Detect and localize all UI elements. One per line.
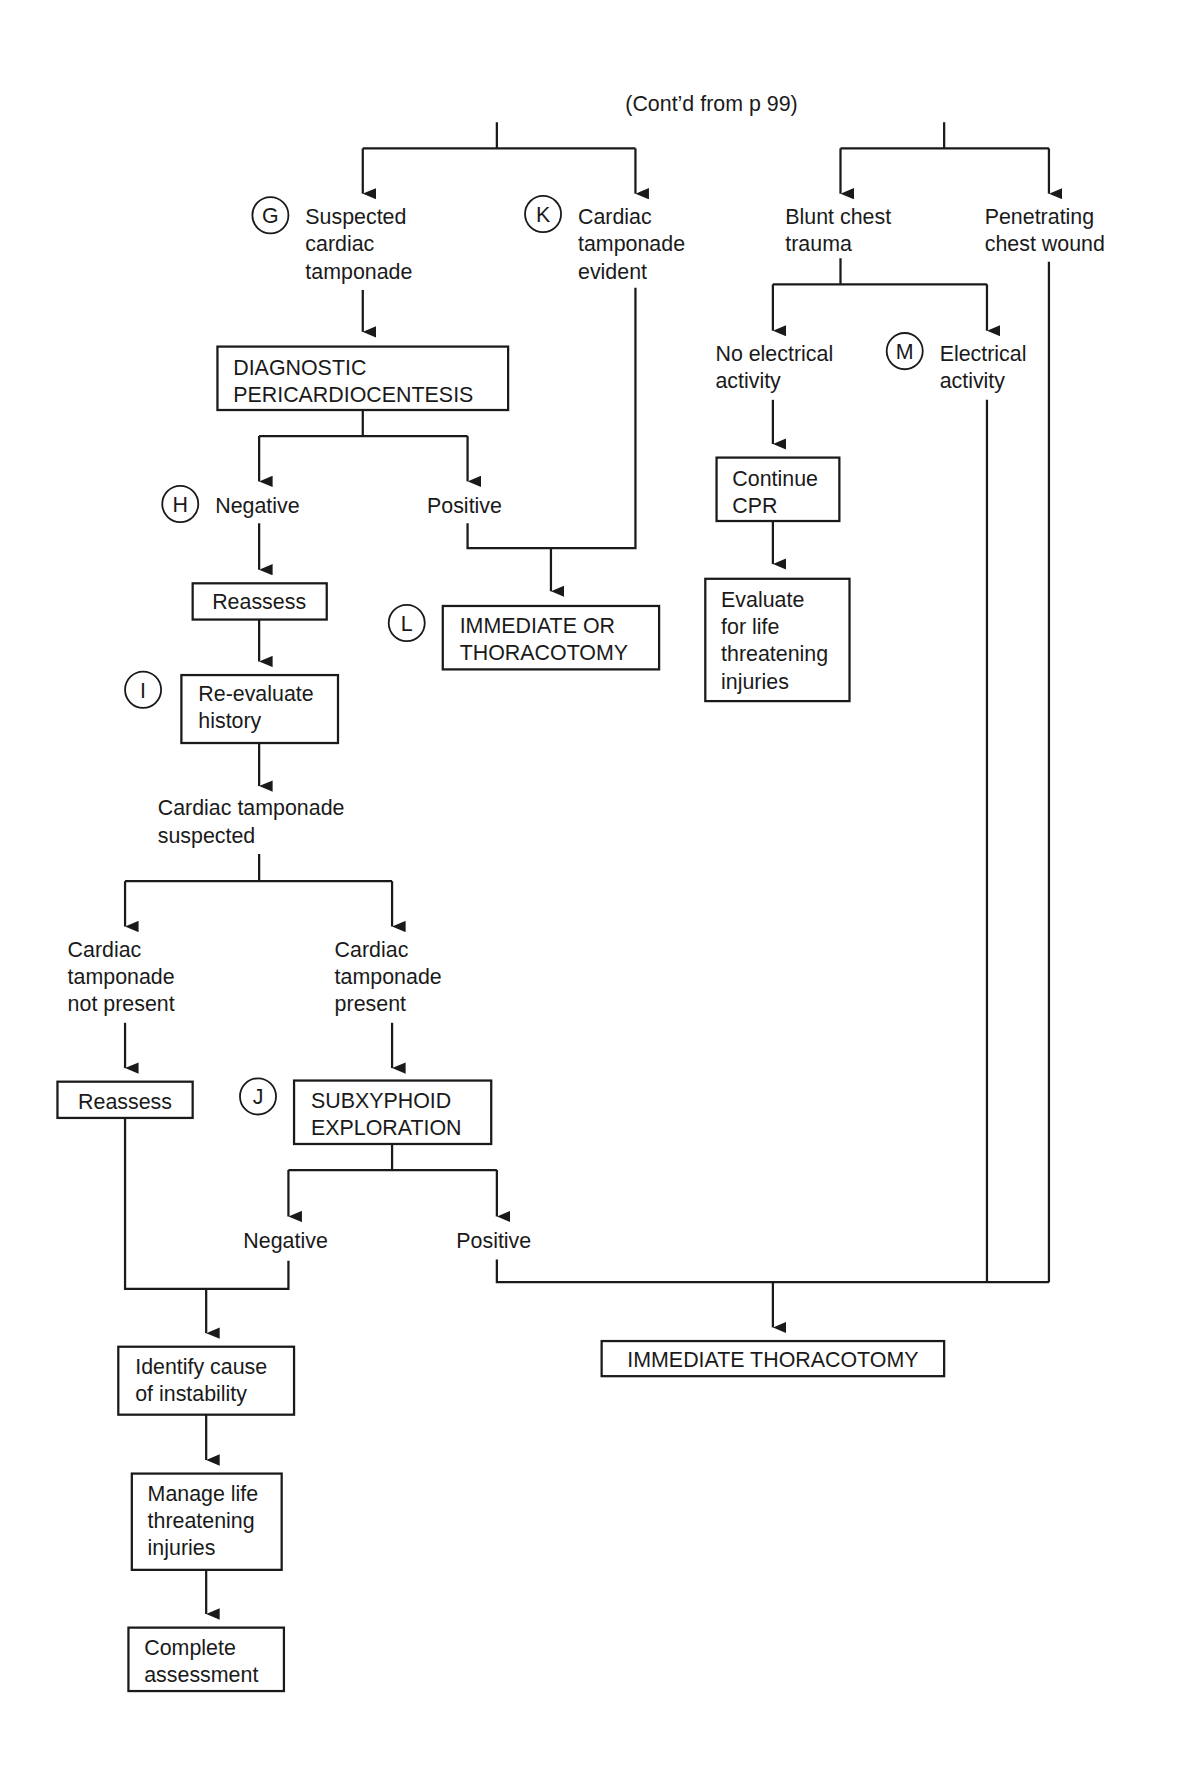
box-reassess-2: Reassess: [57, 1082, 192, 1118]
svg-text:of instability: of instability: [135, 1382, 247, 1406]
flowchart: (Cont’d from p 99) G Suspected cardiac t…: [0, 0, 1183, 1776]
svg-text:L: L: [401, 612, 413, 636]
connector-evident-to-l: [551, 288, 636, 549]
box-diagnostic-pericardiocentesis: DIAGNOSTIC PERICARDIOCENTESIS: [217, 347, 508, 410]
svg-text:SUBXYPHOID: SUBXYPHOID: [311, 1089, 451, 1113]
svg-text:chest wound: chest wound: [985, 232, 1105, 256]
node-tamponade-not-present: Cardiac tamponade not present: [68, 938, 175, 1016]
svg-text:H: H: [173, 493, 188, 517]
svg-text:tamponade: tamponade: [305, 260, 412, 284]
marker-i: I: [125, 672, 161, 708]
connector-tamponade-suspected-split: [125, 854, 392, 926]
box-identify-cause: Identify cause of instability: [118, 1347, 294, 1415]
label-positive-2: Positive: [456, 1229, 531, 1253]
connector-subxyphoid-split: [288, 1144, 496, 1216]
connector-right-top-split: [840, 122, 1048, 193]
svg-text:activity: activity: [940, 369, 1006, 393]
box-immediate-or-thoracotomy: IMMEDIATE OR THORACOTOMY: [443, 606, 659, 669]
svg-text:evident: evident: [578, 260, 647, 284]
svg-text:assessment: assessment: [144, 1663, 258, 1687]
svg-text:Cardiac tamponade: Cardiac tamponade: [158, 796, 345, 820]
connector-blunt-split: [773, 258, 987, 330]
svg-text:G: G: [262, 204, 279, 228]
marker-g: G: [252, 197, 288, 233]
svg-text:injuries: injuries: [148, 1536, 216, 1560]
svg-text:Reassess: Reassess: [78, 1090, 172, 1114]
svg-text:IMMEDIATE OR: IMMEDIATE OR: [460, 614, 615, 638]
svg-text:Electrical: Electrical: [940, 342, 1027, 366]
svg-text:threatening: threatening: [721, 642, 828, 666]
svg-text:tamponade: tamponade: [578, 232, 685, 256]
svg-text:tamponade: tamponade: [68, 965, 175, 989]
node-electrical-activity: Electrical activity: [940, 342, 1027, 393]
marker-h: H: [162, 486, 198, 522]
connector-diagnostic-split: [259, 410, 467, 481]
box-continue-cpr: Continue CPR: [717, 458, 840, 521]
svg-text:tamponade: tamponade: [335, 965, 442, 989]
marker-k: K: [525, 196, 561, 232]
box-reevaluate-history: Re-evaluate history: [181, 675, 338, 743]
label-positive-1: Positive: [427, 494, 502, 518]
box-subxyphoid-exploration: SUBXYPHOID EXPLORATION: [294, 1081, 491, 1144]
svg-text:CPR: CPR: [732, 494, 777, 518]
connector-merge-to-thoracotomy: [497, 1260, 1049, 1283]
label-negative-2: Negative: [243, 1229, 327, 1253]
svg-text:Cardiac: Cardiac: [335, 938, 409, 962]
marker-j: J: [240, 1078, 276, 1114]
svg-text:DIAGNOSTIC: DIAGNOSTIC: [233, 356, 366, 380]
svg-text:PERICARDIOCENTESIS: PERICARDIOCENTESIS: [233, 383, 473, 407]
marker-m: M: [887, 333, 923, 369]
node-tamponade-evident: Cardiac tamponade evident: [578, 205, 685, 283]
svg-text:trauma: trauma: [785, 232, 852, 256]
svg-text:threatening: threatening: [148, 1509, 255, 1533]
node-tamponade-suspected: Cardiac tamponade suspected: [158, 796, 345, 847]
svg-text:Continue: Continue: [732, 467, 818, 491]
svg-text:suspected: suspected: [158, 824, 256, 848]
node-blunt-chest-trauma: Blunt chest trauma: [785, 205, 891, 256]
svg-text:history: history: [198, 709, 261, 733]
svg-text:I: I: [140, 679, 146, 703]
svg-text:No electrical: No electrical: [715, 342, 833, 366]
svg-text:Re-evaluate: Re-evaluate: [198, 682, 313, 706]
svg-text:IMMEDIATE THORACOTOMY: IMMEDIATE THORACOTOMY: [627, 1348, 918, 1372]
svg-text:Cardiac: Cardiac: [68, 938, 142, 962]
connector-left-top-split: [363, 122, 636, 193]
box-immediate-thoracotomy: IMMEDIATE THORACOTOMY: [602, 1341, 945, 1376]
svg-text:injuries: injuries: [721, 670, 789, 694]
svg-text:THORACOTOMY: THORACOTOMY: [460, 641, 628, 665]
box-reassess-1: Reassess: [193, 583, 327, 619]
svg-text:not present: not present: [68, 992, 175, 1016]
node-suspected-tamponade: Suspected cardiac tamponade: [305, 205, 412, 283]
svg-text:for life: for life: [721, 615, 779, 639]
svg-text:K: K: [536, 203, 551, 227]
box-complete-assessment: Complete assessment: [128, 1628, 283, 1691]
svg-text:cardiac: cardiac: [305, 232, 374, 256]
node-no-electrical-activity: No electrical activity: [715, 342, 833, 393]
svg-text:Complete: Complete: [144, 1636, 236, 1660]
svg-text:Cardiac: Cardiac: [578, 205, 652, 229]
svg-text:Blunt chest: Blunt chest: [785, 205, 891, 229]
svg-text:activity: activity: [715, 369, 781, 393]
svg-text:Manage life: Manage life: [148, 1482, 259, 1506]
connector-merge-to-identify: [125, 1118, 288, 1289]
node-penetrating-chest-wound: Penetrating chest wound: [985, 205, 1105, 256]
svg-text:J: J: [253, 1085, 264, 1109]
svg-text:Evaluate: Evaluate: [721, 588, 804, 612]
box-manage-life-threatening: Manage life threatening injuries: [132, 1474, 282, 1570]
svg-text:Identify cause: Identify cause: [135, 1355, 267, 1379]
box-evaluate-life-threatening: Evaluate for life threatening injuries: [705, 579, 849, 701]
label-negative-1: Negative: [215, 494, 299, 518]
marker-l: L: [389, 605, 425, 641]
svg-text:Reassess: Reassess: [212, 590, 306, 614]
svg-text:M: M: [896, 340, 914, 364]
svg-text:Penetrating: Penetrating: [985, 205, 1094, 229]
connector-positive-to-l: [468, 523, 551, 548]
svg-text:EXPLORATION: EXPLORATION: [311, 1116, 462, 1140]
continuation-note: (Cont’d from p 99): [625, 92, 797, 116]
node-tamponade-present: Cardiac tamponade present: [335, 938, 442, 1016]
svg-text:present: present: [335, 992, 406, 1016]
svg-text:Suspected: Suspected: [305, 205, 406, 229]
